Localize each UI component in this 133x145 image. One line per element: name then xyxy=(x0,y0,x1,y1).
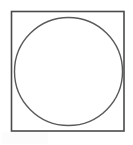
figure-canvas xyxy=(0,0,133,145)
square-outline xyxy=(12,12,125,132)
geometry-figure xyxy=(0,0,133,145)
inscribed-circle xyxy=(15,18,123,126)
